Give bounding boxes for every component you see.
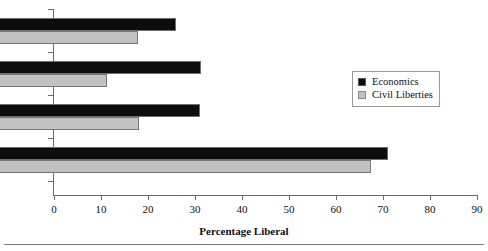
x-tick [336, 195, 337, 200]
x-tick [430, 195, 431, 200]
x-tick [383, 195, 384, 200]
x-tick [148, 195, 149, 200]
bar-civil-liberties [0, 74, 107, 87]
category-tick [48, 181, 54, 182]
legend-label-economics: Economics [372, 76, 419, 88]
category-tick [48, 52, 54, 53]
x-tick-label: 40 [222, 203, 262, 215]
bar-civil-liberties [0, 160, 371, 173]
bar-economics [0, 61, 201, 74]
category-tick [48, 95, 54, 96]
x-tick-label: 70 [363, 203, 403, 215]
x-tick [195, 195, 196, 200]
x-tick-label: 30 [175, 203, 215, 215]
legend-label-civil-liberties: Civil Liberties [372, 89, 433, 101]
category-tick [48, 138, 54, 139]
bar-chart-figure: RobertsRehnquistBurgerWarren 01020304050… [0, 0, 488, 251]
x-tick-label: 20 [128, 203, 168, 215]
x-tick-label: 50 [269, 203, 309, 215]
x-tick [54, 195, 55, 200]
x-tick [477, 195, 478, 200]
x-tick [242, 195, 243, 200]
bar-economics [0, 18, 176, 31]
chart-legend: Economics Civil Liberties [352, 71, 440, 107]
x-tick [101, 195, 102, 200]
gray-square-icon [358, 91, 366, 99]
x-tick-label: 10 [81, 203, 121, 215]
x-tick [289, 195, 290, 200]
black-square-icon [358, 78, 366, 86]
footer-divider [4, 244, 484, 245]
legend-item-economics: Economics [358, 76, 433, 88]
x-axis-line [54, 195, 478, 196]
bar-economics [0, 147, 388, 160]
bar-civil-liberties [0, 31, 138, 44]
legend-item-civil-liberties: Civil Liberties [358, 89, 433, 101]
bar-economics [0, 104, 200, 117]
bar-civil-liberties [0, 117, 139, 130]
x-tick-label: 60 [316, 203, 356, 215]
x-tick-label: 90 [457, 203, 488, 215]
x-tick-label: 80 [410, 203, 450, 215]
x-tick-label: 0 [34, 203, 74, 215]
category-tick [48, 9, 54, 10]
x-axis-title: Percentage Liberal [0, 225, 488, 237]
